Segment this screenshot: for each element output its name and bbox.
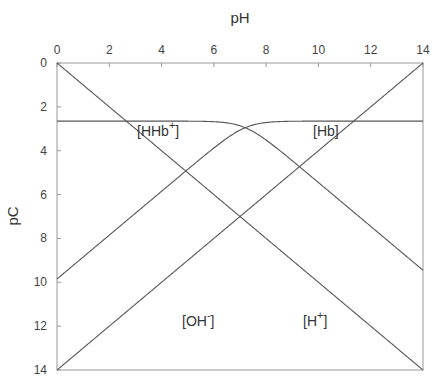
label-hb: [Hb] <box>313 123 339 139</box>
y-axis-title: pC <box>4 206 21 225</box>
y-tick-label: 2 <box>40 100 47 114</box>
label-oh: [OH-] <box>182 309 214 329</box>
series-line-hb <box>57 121 423 279</box>
x-tick-label: 10 <box>312 43 326 57</box>
y-tick-label: 0 <box>40 56 47 70</box>
x-tick-label: 4 <box>158 43 165 57</box>
y-tick-label: 14 <box>34 363 48 377</box>
chart-canvas: pH pC 02468101214 02468101214 [HHb+] [Hb… <box>0 0 443 388</box>
x-tick-label: 6 <box>211 43 218 57</box>
y-tick-label: 8 <box>40 231 47 245</box>
x-tick-label: 14 <box>416 43 430 57</box>
y-tick-label: 4 <box>40 144 47 158</box>
label-hhb: [HHb+] <box>137 119 179 139</box>
y-tick-label: 6 <box>40 188 47 202</box>
label-h: [H+] <box>303 309 327 329</box>
x-tick-label: 0 <box>54 43 61 57</box>
x-tick-label: 2 <box>106 43 113 57</box>
series-line-hhb <box>57 121 423 270</box>
y-tick-label: 10 <box>34 275 48 289</box>
series-lines <box>57 63 423 370</box>
x-tick-label: 12 <box>364 43 378 57</box>
y-tick-label: 12 <box>34 319 48 333</box>
x-axis-title: pH <box>230 9 249 26</box>
x-tick-label: 8 <box>263 43 270 57</box>
